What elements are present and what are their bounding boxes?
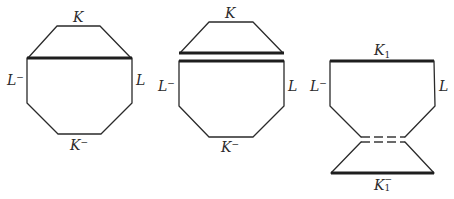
figure-3-surgery bbox=[330, 61, 435, 173]
fig1-lower-body bbox=[27, 58, 132, 134]
fig3-label-top: K1 bbox=[374, 43, 390, 60]
fig2-top-trapezoid bbox=[180, 22, 283, 53]
fig1-label-right: L bbox=[136, 73, 145, 87]
fig2-label-left: L− bbox=[158, 79, 175, 93]
fig3-label-right: L bbox=[439, 79, 448, 93]
figure-2-cut-octagon bbox=[179, 22, 284, 137]
diagram-canvas bbox=[0, 0, 454, 199]
fig1-top-trapezoid bbox=[28, 26, 131, 58]
fig3-label-left: L− bbox=[310, 79, 327, 93]
fig1-label-left: L− bbox=[7, 73, 24, 87]
fig1-label-bottom: K− bbox=[70, 138, 88, 152]
fig2-label-right: L bbox=[288, 79, 297, 93]
fig2-lower-body bbox=[179, 61, 284, 137]
fig2-label-top: K bbox=[225, 6, 235, 20]
fig3-upper-body-right bbox=[405, 61, 435, 137]
fig3-upper-body bbox=[330, 61, 361, 137]
fig3-lower-trapezoid bbox=[331, 142, 361, 173]
fig3-lower-trapezoid-right bbox=[405, 142, 434, 173]
figure-1-octagon bbox=[27, 26, 132, 134]
fig2-label-bottom: K− bbox=[221, 140, 239, 154]
fig3-label-bottom: K−1 bbox=[374, 178, 392, 192]
fig1-label-top: K bbox=[73, 10, 83, 24]
